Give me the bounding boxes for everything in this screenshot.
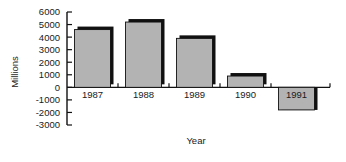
bar-1988[interactable] xyxy=(126,22,162,87)
x-axis-label-1990: 1990 xyxy=(235,89,256,100)
y-axis-tick-label: 3000 xyxy=(39,44,60,55)
bar-1987[interactable] xyxy=(75,30,111,88)
y-axis-tick-label: -3000 xyxy=(36,119,60,130)
y-axis-tick-marks xyxy=(67,12,72,125)
x-axis-label-1987: 1987 xyxy=(82,89,103,100)
bar-chart: 6000500040003000200010000-1000-2000-3000… xyxy=(0,0,346,162)
x-axis-category-labels: 19871988198919901991 xyxy=(82,89,307,100)
x-axis-title: Year xyxy=(186,135,205,146)
y-axis-tick-label: 6000 xyxy=(39,6,60,17)
y-axis-tick-label: 2000 xyxy=(39,57,60,68)
y-axis-tick-label: -2000 xyxy=(36,107,60,118)
y-axis-tick-label: 0 xyxy=(55,82,60,93)
y-axis-tick-label: 4000 xyxy=(39,32,60,43)
x-axis-label-1991: 1991 xyxy=(286,89,307,100)
chart-canvas: 6000500040003000200010000-1000-2000-3000… xyxy=(0,0,346,162)
y-axis-tick-label: -1000 xyxy=(36,94,60,105)
y-axis-tick-labels: 6000500040003000200010000-1000-2000-3000 xyxy=(36,6,60,130)
y-axis-tick-label: 1000 xyxy=(39,69,60,80)
y-axis-tick-label: 5000 xyxy=(39,19,60,30)
bar-1990[interactable] xyxy=(228,76,264,87)
y-axis-title: Millions xyxy=(9,56,20,88)
x-axis-label-1989: 1989 xyxy=(184,89,205,100)
bar-1989[interactable] xyxy=(177,38,213,87)
x-axis-label-1988: 1988 xyxy=(133,89,154,100)
